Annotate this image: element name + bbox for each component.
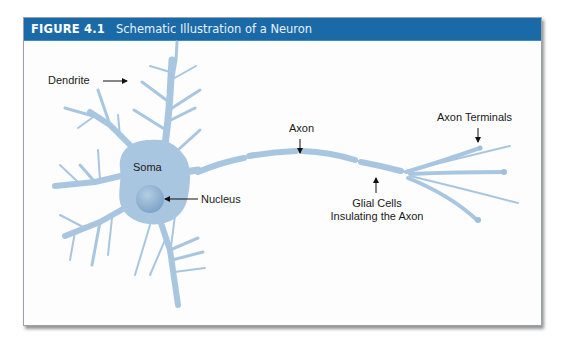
axon-terminals-label: Axon Terminals: [437, 111, 512, 124]
nucleus-shape: [136, 185, 164, 213]
glial-label-line1: Glial Cells: [322, 197, 432, 210]
axon-segment: [198, 158, 244, 172]
axon-segment: [302, 151, 355, 160]
axon-label: Axon: [289, 122, 314, 135]
glial-cells-label: Glial Cells Insulating the Axon: [322, 197, 432, 223]
dendrite-label: Dendrite: [48, 74, 90, 87]
axon-segment: [361, 162, 401, 171]
nucleus-label: Nucleus: [201, 193, 241, 206]
axon-segment: [249, 151, 296, 156]
soma-label: Soma: [133, 161, 162, 174]
neuron-illustration: [0, 0, 571, 344]
axon-terminal-bulbs: [475, 146, 507, 224]
glial-label-line2: Insulating the Axon: [322, 210, 432, 223]
